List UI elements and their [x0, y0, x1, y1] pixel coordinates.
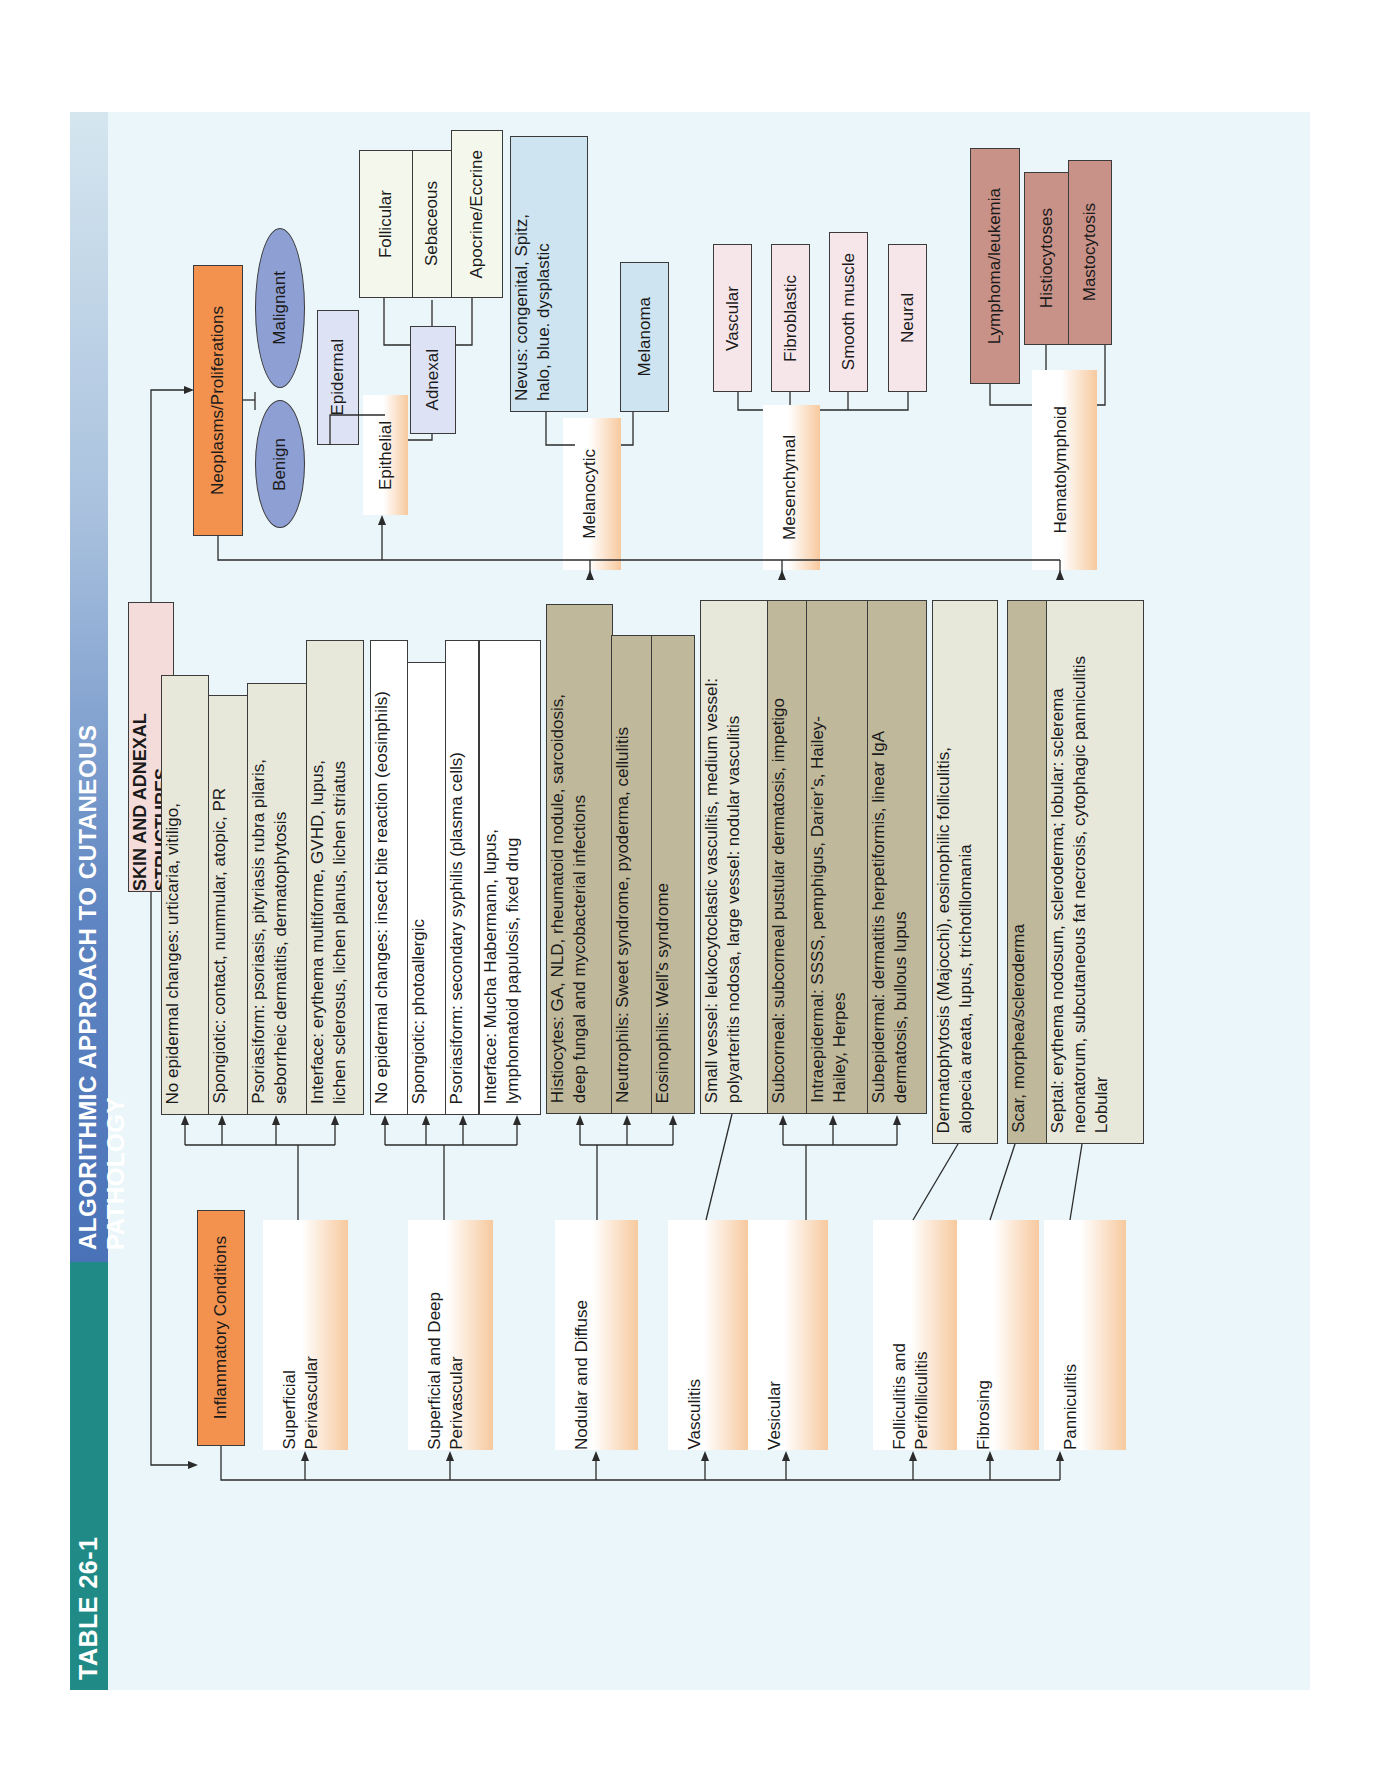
finding-box: Psoriasiform: secondary syphilis (plasma…: [445, 640, 479, 1115]
node-sebaceous: Sebaceous: [412, 150, 452, 298]
arrow-icon: [893, 1115, 901, 1125]
node-melanoma: Melanoma: [620, 262, 669, 412]
node-follicular: Follicular: [359, 150, 413, 298]
pattern-superficial-deep-perivascular[interactable]: Superficial and Deep Perivascular: [408, 1220, 493, 1450]
arrow-icon: [181, 1115, 189, 1125]
finding-box: Interface: erythema multiforme, GVHD, lu…: [306, 640, 364, 1115]
arrow-icon: [378, 515, 386, 525]
arrow-icon: [301, 1451, 309, 1461]
lineage-hematolymphoid[interactable]: Hematolymphoid: [1032, 370, 1097, 570]
node-neural: Neural: [888, 244, 927, 392]
pattern-label: Panniculitis: [1060, 1338, 1082, 1450]
finding-text: Spongiotic: photoallergic: [408, 909, 430, 1114]
finding-text: Subcorneal: subcorneal pustular dermatos…: [768, 688, 790, 1113]
node-label: Smooth muscle: [838, 253, 860, 370]
arrow-icon: [669, 1115, 677, 1125]
finding-box: Dermatophytosis (Majocchi), eosinophilic…: [932, 600, 998, 1144]
category-inflammatory-label: Inflammatory Conditions: [210, 1236, 232, 1419]
node-label: Adnexal: [422, 349, 444, 410]
category-neoplasms[interactable]: Neoplasms/Proliferations: [193, 265, 243, 536]
node-label: Histiocytoses: [1036, 208, 1058, 308]
lineage-label: Melanocytic: [579, 449, 601, 539]
node-fibroblastic: Fibroblastic: [771, 244, 810, 392]
node-label: Neural: [897, 293, 919, 343]
node-label: Mastocytosis: [1079, 203, 1101, 301]
node-label: Melanoma: [634, 297, 656, 376]
pattern-folliculitis[interactable]: Folliculitis and Perifolliculitis: [873, 1220, 957, 1450]
finding-text: Subepidermal: dermatitis herpetiformis, …: [868, 721, 912, 1113]
pattern-vesicular[interactable]: Vesicular: [748, 1220, 828, 1450]
finding-text: Spongiotic: contact, nummular, atopic, P…: [209, 778, 231, 1114]
pattern-label: Fibrosing: [973, 1354, 995, 1450]
node-label: Vascular: [722, 286, 744, 351]
finding-text: Psoriasiform: psoriasis, pityriasis rubr…: [248, 749, 292, 1114]
finding-text: No epidermal changes: insect bite reacti…: [371, 681, 393, 1114]
node-label: Fibroblastic: [780, 275, 802, 362]
node-adnexal: Adnexal: [410, 326, 456, 434]
finding-text: Dermatophytosis (Majocchi), eosinophilic…: [933, 737, 977, 1143]
finding-box: Subcorneal: subcorneal pustular dermatos…: [767, 600, 807, 1114]
pattern-fibrosing[interactable]: Fibrosing: [957, 1220, 1039, 1450]
finding-text: Scar, morphea/scleroderma: [1008, 914, 1030, 1143]
arrow-icon: [986, 1451, 994, 1461]
node-label: Sebaceous: [421, 181, 443, 266]
category-inflammatory[interactable]: Inflammatory Conditions: [197, 1210, 245, 1446]
node-smooth-muscle: Smooth muscle: [829, 232, 868, 392]
lineage-label: Hematolymphoid: [1050, 406, 1072, 534]
node-label: Apocrine/Eccrine: [466, 150, 488, 279]
arrow-icon: [272, 1115, 280, 1125]
finding-box: Subepidermal: dermatitis herpetiformis, …: [867, 600, 927, 1114]
finding-box: Small vessel: leukocytoclastic vasculiti…: [700, 600, 770, 1114]
lineage-epithelial[interactable]: Epithelial: [363, 395, 408, 515]
pattern-label: Superficial Perivascular: [279, 1330, 323, 1450]
node-apocrine-eccrine: Apocrine/Eccrine: [451, 130, 503, 298]
arrow-icon: [779, 1115, 787, 1125]
finding-box: No epidermal changes: urticaria, vitilig…: [161, 675, 209, 1115]
arrow-icon: [909, 1451, 917, 1461]
node-vascular: Vascular: [713, 244, 752, 392]
finding-text: Eosinophils: Well’s syndrome: [652, 873, 674, 1113]
arrow-icon: [459, 1115, 467, 1125]
pattern-label: Superficial and Deep Perivascular: [424, 1266, 468, 1450]
arrow-icon: [184, 386, 194, 394]
arrow-icon: [422, 1115, 430, 1125]
finding-box: Spongiotic: contact, nummular, atopic, P…: [208, 695, 248, 1115]
pattern-superficial-perivascular[interactable]: Superficial Perivascular: [263, 1220, 348, 1450]
lineage-melanocytic[interactable]: Melanocytic: [563, 418, 621, 570]
node-epidermal: Epidermal: [317, 310, 359, 445]
finding-box: Interface: Mucha Habermann, lupus, lymph…: [479, 640, 541, 1115]
arrow-icon: [188, 1461, 198, 1469]
pattern-panniculitis[interactable]: Panniculitis: [1044, 1220, 1126, 1450]
node-label: Nevus: congenital, Spitz, halo, blue. dy…: [511, 204, 561, 411]
oval-benign: Benign: [255, 400, 305, 528]
finding-text: Intraepidermal: SSSS, pemphigus, Darier’…: [807, 706, 851, 1113]
finding-text: Septal: erythema nodosum, scleroderma; l…: [1047, 646, 1113, 1143]
lineage-label: Mesenchymal: [779, 435, 801, 540]
node-label: Follicular: [375, 190, 397, 258]
pattern-nodular-diffuse[interactable]: Nodular and Diffuse: [555, 1220, 638, 1450]
node-mastocytosis: Mastocytosis: [1068, 160, 1112, 345]
arrow-icon: [513, 1115, 521, 1125]
lineage-mesenchymal[interactable]: Mesenchymal: [763, 405, 820, 570]
node-label: Lymphoma/leukemia: [984, 188, 1006, 344]
arrow-icon: [782, 1451, 790, 1461]
arrow-icon: [446, 1451, 454, 1461]
pattern-label: Folliculitis and Perifolliculitis: [889, 1317, 933, 1450]
pattern-vasculitis[interactable]: Vasculitis: [668, 1220, 748, 1450]
finding-text: No epidermal changes: urticaria, vitilig…: [162, 793, 184, 1114]
table-title: ALGORITHMIC APPROACH TO CUTANEOUS PATHOL…: [74, 650, 130, 1250]
finding-box: Intraepidermal: SSSS, pemphigus, Darier’…: [806, 600, 868, 1114]
finding-box: Eosinophils: Well’s syndrome: [651, 635, 695, 1114]
node-histiocytoses: Histiocytoses: [1024, 172, 1069, 345]
arrow-icon: [623, 1115, 631, 1125]
arrow-icon: [218, 1115, 226, 1125]
finding-text: Psoriasiform: secondary syphilis (plasma…: [446, 742, 468, 1114]
lineage-label: Epithelial: [375, 421, 397, 490]
arrow-icon: [576, 1115, 584, 1125]
pattern-label: Vesicular: [764, 1355, 786, 1450]
arrow-icon: [586, 570, 594, 580]
finding-box: Septal: erythema nodosum, scleroderma; l…: [1046, 600, 1144, 1144]
arrow-icon: [829, 1115, 837, 1125]
arrow-icon: [1056, 1451, 1064, 1461]
category-neoplasms-label: Neoplasms/Proliferations: [207, 306, 229, 495]
